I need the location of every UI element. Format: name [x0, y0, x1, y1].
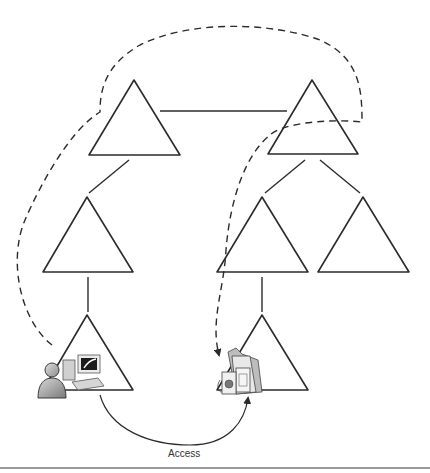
- node-mid-right: [318, 197, 409, 272]
- bottom-divider: [0, 467, 430, 469]
- access-label: Access: [168, 448, 200, 459]
- edge-root-right-mid-right: [320, 160, 360, 193]
- access-hierarchy-diagram: Access: [0, 0, 430, 473]
- node-root-right: [268, 80, 358, 154]
- access-arrow: [100, 395, 248, 445]
- edge-root-left-mid-left: [89, 160, 129, 193]
- node-mid-center: [217, 197, 308, 272]
- documents-folder-icon: [218, 348, 262, 394]
- dashed-trust-path: [17, 26, 362, 355]
- user-at-computer-icon: [38, 355, 104, 398]
- node-mid-left: [43, 197, 133, 272]
- edge-root-right-mid-center: [265, 160, 305, 193]
